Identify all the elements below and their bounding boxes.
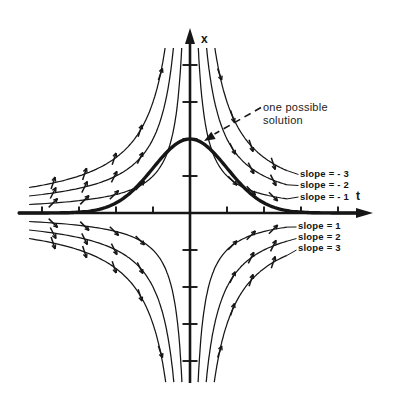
- isocline-curve-upper-left-k2: [29, 48, 173, 196]
- solution-annotation: one possible solution: [263, 101, 328, 127]
- x-axis-arrowhead: [185, 28, 195, 44]
- isocline-label-slope-neg-2: slope = - 2: [300, 179, 349, 190]
- direction-arrowhead: [222, 346, 223, 350]
- isocline-label-leader: [287, 171, 299, 175]
- isocline-curve-lower-right-k1: [198, 227, 287, 382]
- isocline-label-leader: [287, 239, 297, 242]
- direction-arrow-lower-right: [228, 241, 237, 250]
- direction-arrowhead: [275, 257, 276, 261]
- direction-arrowhead: [87, 168, 88, 172]
- isocline-label-leader: [287, 185, 299, 186]
- solution-annotation-line1: one possible: [263, 101, 328, 114]
- isocline-label-slope-neg-1: slope = - 1: [300, 191, 349, 202]
- direction-arrowhead: [162, 68, 163, 72]
- x-axis-label: x: [201, 32, 208, 46]
- solution-annotation-line2: solution: [263, 114, 328, 127]
- direction-arrow-upper-left: [110, 191, 119, 200]
- solution-annotation-arrowhead: [204, 132, 216, 141]
- direction-arrowhead: [55, 177, 56, 182]
- direction-arrowhead: [142, 125, 143, 129]
- isocline-label-slope-neg-3: slope = - 3: [300, 168, 349, 179]
- isocline-label-leader: [287, 197, 299, 199]
- direction-arrowhead: [235, 304, 236, 309]
- isocline-curve-lower-right-k3: [214, 255, 287, 382]
- isocline-label-slope-2: slope = 2: [298, 231, 341, 242]
- isocline-label-leader: [287, 250, 297, 255]
- isocline-label-slope-1: slope = 1: [298, 220, 341, 231]
- direction-field-figure: x t one possible solution slope = - 3 sl…: [0, 0, 393, 401]
- isocline-curve-lower-left-k3: [29, 239, 166, 383]
- isocline-label-slope-3: slope = 3: [298, 242, 341, 253]
- isocline-curve-upper-left-k3: [29, 48, 165, 188]
- direction-arrow-lower-left: [110, 227, 119, 236]
- direction-arrowhead: [253, 274, 254, 279]
- direction-arrow-lower-right: [247, 231, 256, 240]
- direction-arrowhead: [116, 153, 117, 157]
- isocline-curve-lower-left-k2: [29, 230, 174, 382]
- direction-arrow-lower-left: [136, 236, 145, 245]
- solution-annotation-leader: [215, 108, 262, 135]
- t-axis-label: t: [356, 189, 360, 203]
